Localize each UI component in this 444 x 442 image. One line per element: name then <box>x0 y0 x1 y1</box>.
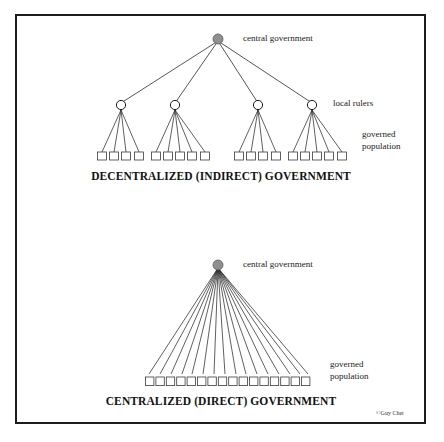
central-government-node-bottom <box>213 260 223 270</box>
local-ruler-node <box>307 100 316 109</box>
edge-local1-subject-1 <box>102 110 121 152</box>
subject-box <box>156 377 164 386</box>
edge-central-local-4 <box>218 41 312 103</box>
credit-line: ©Guy Chet <box>376 410 404 416</box>
subject-box <box>239 377 247 386</box>
edge-local1-subject-2 <box>114 110 121 152</box>
edge-local2-subject-2 <box>168 110 175 152</box>
subject-box <box>198 377 206 386</box>
subject-box <box>166 377 174 386</box>
subject-box <box>201 152 210 160</box>
subject-box <box>301 152 310 160</box>
subject-box <box>229 377 237 386</box>
population-boxes-centralized <box>146 377 310 386</box>
label-central-government-top: central government <box>243 33 313 44</box>
subject-box <box>122 152 131 160</box>
edge-central-local-2 <box>175 41 218 103</box>
subject-box <box>289 152 298 160</box>
edge-central-subject-2 <box>160 268 218 374</box>
edge-central-subject-12 <box>218 268 268 374</box>
subject-box <box>176 152 185 160</box>
subject-box <box>177 377 185 386</box>
label-governed-population-top-line1: governed <box>362 129 396 139</box>
subject-box <box>302 377 310 386</box>
subject-box <box>235 152 244 160</box>
subject-boxes-cluster-1 <box>98 152 144 160</box>
subject-box <box>110 152 119 160</box>
subject-box <box>188 152 197 160</box>
edge-central-subject-15 <box>218 268 300 374</box>
centralized-diagram <box>146 260 310 386</box>
subject-box <box>291 377 299 386</box>
subject-boxes-cluster-3 <box>235 152 281 160</box>
subject-box <box>164 152 173 160</box>
edge-local3-subject-2 <box>251 110 258 152</box>
decentralized-diagram <box>98 34 347 160</box>
edge-central-subject-1 <box>149 268 218 374</box>
central-to-population-edges <box>149 268 308 374</box>
subject-box <box>259 152 268 160</box>
caption-decentralized: DECENTRALIZED (INDIRECT) GOVERNMENT <box>17 170 425 182</box>
subject-box <box>270 377 278 386</box>
edge-central-subject-16 <box>218 268 308 374</box>
local-cluster-4 <box>293 110 342 152</box>
label-local-rulers: local rulers <box>333 98 373 109</box>
local-cluster-1 <box>102 110 139 152</box>
label-governed-population-top-line2: population <box>362 141 401 151</box>
subject-box <box>135 152 144 160</box>
subject-boxes-cluster-2 <box>152 152 210 160</box>
edge-local3-subject-1 <box>239 110 258 152</box>
edge-central-subject-14 <box>218 268 290 374</box>
label-governed-population-bottom-line2: population <box>330 371 369 381</box>
subject-boxes-cluster-4 <box>289 152 347 160</box>
edge-local4-subject-1 <box>293 110 312 152</box>
local-ruler-node <box>116 100 125 109</box>
edge-central-subject-3 <box>171 268 218 374</box>
edge-local4-subject-2 <box>305 110 312 152</box>
subject-box <box>325 152 334 160</box>
subject-box <box>281 377 289 386</box>
subject-box <box>218 377 226 386</box>
central-to-local-edges <box>121 41 312 103</box>
caption-centralized: CENTRALIZED (DIRECT) GOVERNMENT <box>17 395 425 407</box>
subject-box <box>338 152 347 160</box>
central-government-node-top <box>213 34 223 44</box>
edge-central-local-3 <box>218 41 258 103</box>
edge-central-subject-4 <box>182 268 218 374</box>
figure-page: central government local rulers governed… <box>0 0 444 442</box>
subject-box <box>208 377 216 386</box>
subject-box <box>187 377 195 386</box>
label-governed-population-top: governed population <box>362 129 432 152</box>
local-ruler-node <box>170 100 179 109</box>
edge-central-local-1 <box>121 41 218 103</box>
local-cluster-3 <box>239 110 276 152</box>
local-ruler-node <box>253 100 262 109</box>
edge-local2-subject-1 <box>156 110 175 152</box>
local-ruler-nodes <box>116 100 316 109</box>
subject-box <box>152 152 161 160</box>
subject-box <box>250 377 258 386</box>
subject-box <box>313 152 322 160</box>
edge-central-subject-10 <box>218 268 246 374</box>
label-central-government-bottom: central government <box>243 259 313 270</box>
local-cluster-2 <box>156 110 205 152</box>
label-governed-population-bottom-line1: governed <box>330 359 364 369</box>
label-governed-population-bottom: governed population <box>330 359 405 382</box>
subject-box <box>272 152 281 160</box>
subject-box <box>98 152 107 160</box>
subject-box <box>260 377 268 386</box>
subject-box <box>247 152 256 160</box>
subject-box <box>146 377 154 386</box>
